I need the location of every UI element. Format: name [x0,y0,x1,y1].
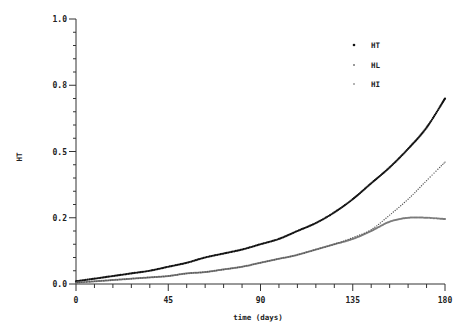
axes: 0.00.20.50.81.004590135180 [53,15,453,305]
plot-area [75,97,446,283]
series-ht [75,97,446,282]
legend-item-hi: HI [353,80,380,89]
x-tick-label: 90 [256,296,266,305]
legend-label: HI [371,80,380,89]
y-tick-label: 0.8 [53,81,68,90]
legend-marker-icon [353,83,355,85]
legend-label: HT [371,41,381,50]
legend-label: HL [371,61,381,70]
y-axis-title: HT [15,152,24,162]
legend-marker-icon [353,64,355,66]
legend-item-ht: HT [353,41,381,50]
x-axis-title: time (days) [233,313,283,322]
legend-item-hl: HL [353,61,381,70]
y-tick-label: 0.0 [53,280,68,289]
line-chart: 0.00.20.50.81.004590135180 HTHLHI time (… [0,0,466,336]
x-tick-label: 180 [438,296,453,305]
y-tick-label: 0.2 [53,214,68,223]
x-tick-label: 135 [346,296,361,305]
y-tick-label: 1.0 [53,15,68,24]
x-tick-label: 0 [74,296,79,305]
legend: HTHLHI [353,41,381,89]
x-tick-label: 45 [163,296,173,305]
legend-marker-icon [353,44,356,47]
y-tick-label: 0.5 [53,148,68,157]
